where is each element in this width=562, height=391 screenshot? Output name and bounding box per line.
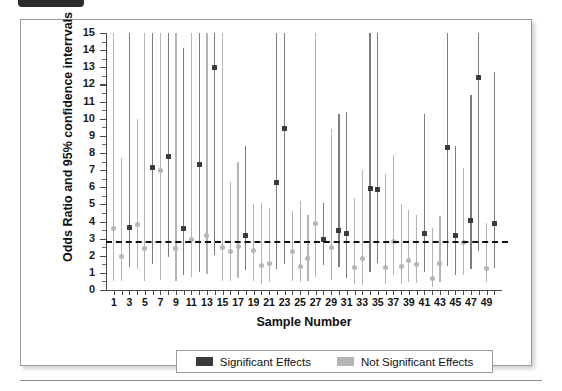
y-tick xyxy=(100,239,106,240)
x-tick xyxy=(409,290,410,295)
x-tick xyxy=(269,290,270,295)
x-tick xyxy=(230,290,231,295)
confidence-interval-line xyxy=(416,215,417,284)
figure-container: 0123456789101112131415 13579111315171921… xyxy=(20,19,532,366)
x-axis-title: Sample Number xyxy=(106,315,502,329)
x-tick xyxy=(122,290,123,295)
point-marker-significant xyxy=(445,145,450,150)
point-marker-not-significant xyxy=(259,263,264,268)
point-marker-significant xyxy=(422,231,427,236)
y-tick-label: 15 xyxy=(73,27,95,38)
confidence-interval-line xyxy=(470,95,471,270)
point-marker-significant xyxy=(181,226,186,231)
confidence-interval-line xyxy=(331,129,332,280)
point-marker-significant xyxy=(492,221,497,226)
y-tick-label: 2 xyxy=(73,250,95,261)
y-minor-tick xyxy=(102,247,106,248)
confidence-interval-line xyxy=(121,158,122,281)
x-tick xyxy=(440,290,441,295)
confidence-interval-line xyxy=(338,114,339,267)
reference-line xyxy=(106,241,508,243)
x-tick xyxy=(432,290,433,295)
confidence-interval-line xyxy=(222,33,223,281)
point-marker-not-significant xyxy=(236,244,241,249)
x-tick xyxy=(215,290,216,295)
x-tick xyxy=(292,290,293,295)
y-minor-tick xyxy=(102,127,106,128)
x-tick xyxy=(308,290,309,295)
y-minor-tick xyxy=(102,213,106,214)
x-tick xyxy=(448,290,449,295)
confidence-interval-line xyxy=(439,216,440,282)
x-tick xyxy=(463,290,464,295)
point-marker-not-significant xyxy=(313,221,318,226)
x-tick xyxy=(160,290,161,295)
point-marker-not-significant xyxy=(305,256,310,261)
x-tick xyxy=(145,290,146,295)
y-tick xyxy=(100,222,106,223)
point-marker-not-significant xyxy=(406,258,411,263)
y-tick xyxy=(100,290,106,291)
y-tick-label: 6 xyxy=(73,181,95,192)
confidence-interval-line xyxy=(175,33,176,281)
x-tick xyxy=(417,290,418,295)
x-tick xyxy=(285,290,286,295)
y-minor-tick xyxy=(102,110,106,111)
point-marker-not-significant xyxy=(173,246,178,251)
chart-legend: Significant Effects Not Significant Effe… xyxy=(176,350,493,373)
y-tick-label: 11 xyxy=(73,96,95,107)
confidence-interval-line xyxy=(307,215,308,282)
point-marker-not-significant xyxy=(329,245,334,250)
y-tick-label: 1 xyxy=(73,267,95,278)
y-minor-tick xyxy=(102,144,106,145)
x-tick xyxy=(393,290,394,295)
x-tick xyxy=(176,290,177,295)
point-marker-not-significant xyxy=(484,266,489,271)
y-minor-tick xyxy=(102,281,106,282)
confidence-interval-line xyxy=(478,33,479,251)
confidence-interval-line xyxy=(346,112,347,278)
y-tick xyxy=(100,204,106,205)
confidence-interval-line xyxy=(245,146,246,270)
confidence-interval-line xyxy=(269,208,270,283)
x-tick xyxy=(455,290,456,295)
y-minor-tick xyxy=(102,162,106,163)
y-tick xyxy=(100,50,106,51)
x-tick xyxy=(153,290,154,295)
point-marker-significant xyxy=(150,165,155,170)
x-tick xyxy=(424,290,425,295)
confidence-interval-line xyxy=(401,204,402,284)
point-marker-not-significant xyxy=(399,264,404,269)
confidence-interval-line xyxy=(129,33,130,267)
x-tick xyxy=(191,290,192,295)
point-marker-not-significant xyxy=(111,226,116,231)
confidence-interval-line xyxy=(455,146,456,275)
y-tick xyxy=(100,119,106,120)
page-header-tab-fragment xyxy=(18,0,84,7)
point-marker-significant xyxy=(368,186,373,191)
y-tick-label: 10 xyxy=(73,113,95,124)
x-tick xyxy=(129,290,130,295)
confidence-interval-line xyxy=(393,155,394,276)
page-divider-rule xyxy=(20,380,542,381)
x-tick-label: 49 xyxy=(478,297,496,308)
y-tick xyxy=(100,136,106,137)
x-tick xyxy=(300,290,301,295)
confidence-interval-line xyxy=(137,119,138,269)
y-minor-tick xyxy=(102,196,106,197)
x-tick xyxy=(277,290,278,295)
y-tick-label: 8 xyxy=(73,147,95,158)
x-tick xyxy=(487,290,488,295)
confidence-interval-line xyxy=(486,223,487,282)
x-tick xyxy=(199,290,200,295)
legend-label-not-significant: Not Significant Effects xyxy=(361,356,473,368)
y-tick-label: 7 xyxy=(73,164,95,175)
y-minor-tick xyxy=(102,230,106,231)
point-marker-significant xyxy=(453,233,458,238)
point-marker-significant xyxy=(127,225,132,230)
point-marker-not-significant xyxy=(290,249,295,254)
point-marker-not-significant xyxy=(119,254,124,259)
legend-item-significant: Significant Effects xyxy=(196,356,311,368)
point-marker-significant xyxy=(212,65,217,70)
x-axis-line xyxy=(106,290,502,291)
